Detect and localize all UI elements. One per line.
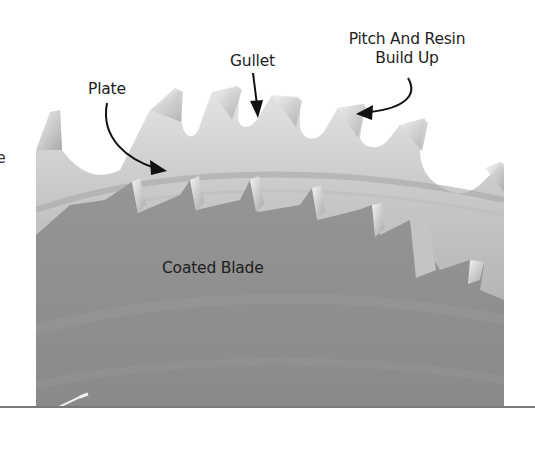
cut-off-text: e (0, 148, 6, 167)
plate-label: Plate (88, 80, 126, 99)
diagram-figure: e Plate Gullet Pitch And Resin Build Up … (0, 0, 535, 450)
coated-blade-label: Coated Blade (162, 259, 264, 278)
gullet-label: Gullet (230, 52, 275, 71)
divider-line (0, 406, 535, 408)
gullet-arrow-icon (250, 73, 263, 118)
pitch-arrow-icon (356, 78, 411, 120)
pitch-resin-label: Pitch And Resin Build Up (342, 30, 472, 68)
